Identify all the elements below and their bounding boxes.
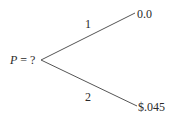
outcome-2-value: $.045 <box>138 101 165 113</box>
branch-1-label: 1 <box>85 18 91 30</box>
branch-2-label: 2 <box>85 91 91 103</box>
outcome-1-value: 0.0 <box>137 8 152 20</box>
root-node-label: P = ? <box>10 54 35 66</box>
root-value: = ? <box>17 53 35 67</box>
